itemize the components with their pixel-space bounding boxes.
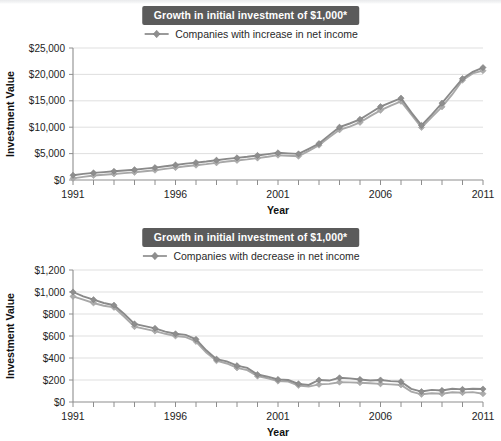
chart-plot-increase: $0$5,000$10,000$15,000$20,000$25,0001991… — [0, 44, 501, 218]
y-tick-label: $25,000 — [29, 44, 66, 54]
legend-line-marker-icon — [143, 28, 169, 40]
chart-legend-decrease: Companies with decrease in net income — [141, 250, 359, 262]
y-tick-label: $1,000 — [34, 287, 65, 298]
series-data-point — [316, 377, 322, 383]
y-tick-label: $5,000 — [34, 148, 65, 159]
legend-line-marker-icon — [141, 250, 167, 262]
chart-panel-decrease: Growth in initial investment of $1,000* … — [0, 228, 501, 441]
y-tick-label: $400 — [43, 353, 66, 364]
y-tick-label: $0 — [54, 175, 66, 186]
x-tick-label: 2001 — [266, 188, 290, 200]
x-tick-label: 2011 — [472, 410, 495, 422]
chart-svg-decrease: $0$200$400$600$800$1,000$1,2001991199620… — [0, 266, 501, 440]
series-data-point — [480, 386, 486, 392]
y-tick-label: $200 — [43, 375, 66, 386]
x-tick-label: 2006 — [369, 410, 393, 422]
chart-panel-increase: Growth in initial investment of $1,000* … — [0, 6, 501, 218]
series-line — [73, 68, 483, 176]
y-tick-label: $20,000 — [29, 69, 66, 80]
x-tick-label: 2001 — [266, 410, 290, 422]
x-tick-label: 1991 — [61, 410, 85, 422]
series-data-point — [377, 377, 383, 383]
chart-title-decrease: Growth in initial investment of $1,000* — [142, 228, 360, 247]
y-axis-title: Investment Value — [4, 71, 16, 157]
y-tick-label: $1,200 — [34, 266, 65, 276]
y-tick-label: $15,000 — [29, 95, 66, 106]
legend-label-decrease: Companies with decrease in net income — [173, 250, 359, 262]
legend-label-increase: Companies with increase in net income — [175, 28, 358, 40]
y-tick-label: $10,000 — [29, 122, 66, 133]
series-data-point — [70, 289, 76, 295]
x-axis-title: Year — [267, 426, 289, 438]
chart-legend-increase: Companies with increase in net income — [143, 28, 358, 40]
x-tick-label: 1996 — [164, 188, 188, 200]
y-tick-label: $600 — [43, 331, 66, 342]
y-axis-title: Investment Value — [4, 293, 16, 379]
chart-svg-increase: $0$5,000$10,000$15,000$20,000$25,0001991… — [0, 44, 501, 218]
y-tick-label: $800 — [43, 309, 66, 320]
x-tick-label: 1991 — [61, 188, 85, 200]
x-axis-title: Year — [267, 204, 289, 216]
page-top-divider — [0, 0, 501, 4]
x-tick-label: 2011 — [472, 188, 495, 200]
chart-title-increase: Growth in initial investment of $1,000* — [142, 6, 360, 25]
x-tick-label: 2006 — [369, 188, 393, 200]
y-tick-label: $0 — [54, 397, 66, 408]
x-tick-label: 1996 — [164, 410, 188, 422]
chart-plot-decrease: $0$200$400$600$800$1,000$1,2001991199620… — [0, 266, 501, 440]
